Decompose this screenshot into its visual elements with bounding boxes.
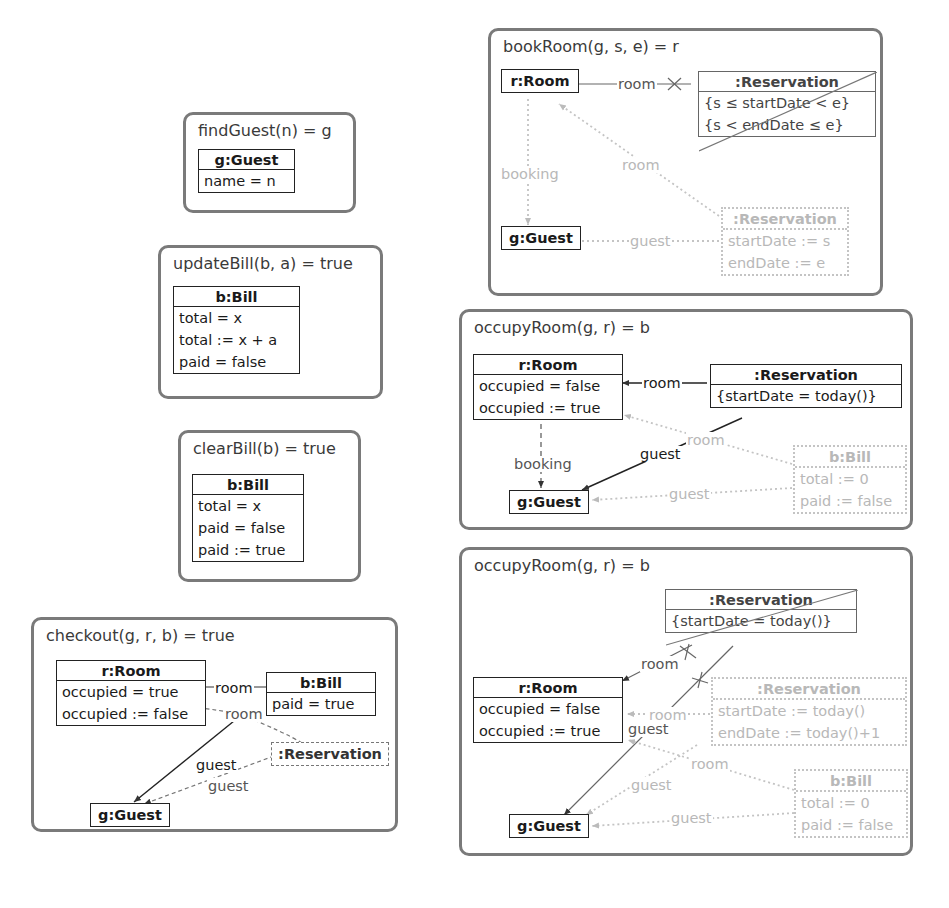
object-attribute: startDate := today() bbox=[713, 700, 905, 722]
object-header: b:Bill bbox=[795, 447, 905, 468]
diagram-title: findGuest(n) = g bbox=[198, 121, 332, 140]
room-object: r:Room occupied = true occupied := false bbox=[56, 660, 206, 726]
link-label-room: room bbox=[224, 706, 264, 722]
link-label-room: room bbox=[640, 656, 680, 672]
guest-object: g:Guest bbox=[501, 226, 581, 250]
object-attribute: paid := true bbox=[193, 539, 303, 561]
link-label-guest: guest bbox=[630, 777, 673, 793]
object-attribute: paid = false bbox=[193, 517, 303, 539]
object-attribute: paid := false bbox=[796, 814, 906, 836]
room-object: r:Room bbox=[501, 69, 579, 93]
room-object: r:Room occupied = false occupied := true bbox=[473, 354, 623, 420]
diagram-title: bookRoom(g, s, e) = r bbox=[503, 37, 679, 56]
link-label-guest: guest bbox=[670, 810, 713, 826]
object-attribute: occupied = true bbox=[57, 681, 205, 703]
diagram-title: checkout(g, r, b) = true bbox=[46, 626, 235, 645]
link-label-booking: booking bbox=[513, 456, 573, 472]
bill-object: b:Bill total = x paid = false paid := tr… bbox=[192, 474, 304, 562]
diagram-findguest: findGuest(n) = g g:Guest name = n bbox=[183, 112, 356, 213]
link-label-booking: booking bbox=[500, 166, 560, 182]
object-header: :Reservation bbox=[713, 679, 905, 700]
object-header: r:Room bbox=[57, 661, 205, 681]
object-header: b:Bill bbox=[193, 475, 303, 495]
object-attribute: occupied = false bbox=[474, 375, 622, 397]
link-label-guest: guest bbox=[639, 446, 682, 462]
link-label-guest: guest bbox=[629, 233, 672, 249]
bill-object-created: b:Bill total := 0 paid := false bbox=[793, 445, 907, 514]
object-attribute: total := 0 bbox=[796, 792, 906, 814]
object-attribute: total := x + a bbox=[174, 329, 299, 351]
object-header: :Reservation bbox=[711, 365, 901, 385]
diagram-title: updateBill(b, a) = true bbox=[173, 254, 353, 273]
object-attribute: total := 0 bbox=[795, 468, 905, 490]
room-object: r:Room occupied = false occupied := true bbox=[473, 677, 623, 743]
bill-object: b:Bill total = x total := x + a paid = f… bbox=[173, 286, 300, 374]
diagram-bookroom: bookRoom(g, s, e) = r r:Room g:Guest :Re… bbox=[488, 28, 883, 296]
link-label-room: room bbox=[690, 756, 730, 772]
diagram-updatebill: updateBill(b, a) = true b:Bill total = x… bbox=[158, 245, 383, 399]
object-attribute: endDate := e bbox=[723, 252, 847, 274]
diagram-title: occupyRoom(g, r) = b bbox=[474, 556, 650, 575]
link-label-guest: guest bbox=[627, 721, 670, 737]
object-attribute: paid = false bbox=[174, 351, 299, 373]
object-header: g:Guest bbox=[502, 227, 580, 249]
object-attribute: name = n bbox=[199, 170, 294, 192]
guest-object: g:Guest name = n bbox=[198, 149, 295, 193]
reservation-object-created: :Reservation startDate := s endDate := e bbox=[721, 207, 849, 276]
object-header: :Reservation bbox=[272, 743, 388, 765]
diagram-occupyroom-2: occupyRoom(g, r) = b :Reservation {start… bbox=[459, 547, 913, 856]
reservation-object: :Reservation {startDate = today()} bbox=[710, 364, 902, 408]
object-attribute: total = x bbox=[193, 495, 303, 517]
bill-object: b:Bill paid = true bbox=[266, 672, 376, 716]
reservation-object-deleted: :Reservation bbox=[271, 742, 389, 766]
object-header: r:Room bbox=[502, 70, 578, 92]
object-header: g:Guest bbox=[91, 804, 169, 826]
link-label-guest: guest bbox=[195, 757, 238, 773]
guest-object: g:Guest bbox=[90, 803, 170, 827]
strike-line bbox=[666, 590, 858, 646]
object-constraint: {startDate = today()} bbox=[711, 385, 901, 407]
reservation-object-created: :Reservation startDate := today() endDat… bbox=[711, 677, 907, 746]
diagram-checkout: checkout(g, r, b) = true r:Room occupied… bbox=[31, 617, 398, 832]
bill-object-created: b:Bill total := 0 paid := false bbox=[794, 769, 908, 838]
object-header: g:Guest bbox=[199, 150, 294, 170]
object-header: g:Guest bbox=[510, 815, 588, 837]
reservation-object-negative: :Reservation {s ≤ startDate < e} {s < en… bbox=[698, 71, 876, 137]
link-label-guest: guest bbox=[668, 486, 711, 502]
object-header: b:Bill bbox=[796, 771, 906, 792]
object-header: b:Bill bbox=[267, 673, 375, 693]
link-label-room: room bbox=[617, 76, 657, 92]
link-label-room: room bbox=[621, 157, 661, 173]
object-attribute: paid := false bbox=[795, 490, 905, 512]
object-attribute: endDate := today()+1 bbox=[713, 722, 905, 744]
diagram-title: clearBill(b) = true bbox=[193, 439, 336, 458]
object-attribute: paid = true bbox=[267, 693, 375, 715]
reservation-object-negative: :Reservation {startDate = today()} bbox=[665, 589, 857, 633]
object-header: r:Room bbox=[474, 355, 622, 375]
diagram-clearbill: clearBill(b) = true b:Bill total = x pai… bbox=[178, 430, 361, 582]
object-header: g:Guest bbox=[510, 491, 588, 513]
object-header: :Reservation bbox=[723, 209, 847, 230]
object-header: r:Room bbox=[474, 678, 622, 698]
object-attribute: occupied := true bbox=[474, 720, 622, 742]
object-attribute: occupied = false bbox=[474, 698, 622, 720]
object-attribute: occupied := true bbox=[474, 397, 622, 419]
strike-line bbox=[699, 72, 877, 152]
object-attribute: occupied := false bbox=[57, 703, 205, 725]
link-label-guest: guest bbox=[207, 778, 250, 794]
object-attribute: startDate := s bbox=[723, 230, 847, 252]
link-label-room: room bbox=[214, 680, 254, 696]
guest-object: g:Guest bbox=[509, 490, 589, 514]
diagram-title: occupyRoom(g, r) = b bbox=[474, 318, 650, 337]
object-attribute: total = x bbox=[174, 307, 299, 329]
link-label-room: room bbox=[642, 375, 682, 391]
diagram-occupyroom-1: occupyRoom(g, r) = b r:Room occupied = f… bbox=[459, 309, 913, 530]
guest-object: g:Guest bbox=[509, 814, 589, 838]
object-header: b:Bill bbox=[174, 287, 299, 307]
link-label-room: room bbox=[686, 432, 726, 448]
